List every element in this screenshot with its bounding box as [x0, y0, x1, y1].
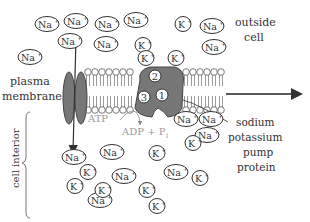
lipid-head [190, 69, 197, 76]
inside-ion-charge: + [218, 112, 223, 119]
inside-ion-label: K [98, 185, 106, 196]
inside-ion-charge: + [161, 146, 166, 153]
lipid-head [197, 69, 204, 76]
ions-outside-group: Na+Na+Na+Na+Na+Na+Na+Na+Na+K+K+K+K+ [18, 13, 226, 66]
outside-cell-label-line2: cell [244, 31, 264, 44]
outside-ion-charge: + [77, 34, 82, 41]
cell-interior-brace [22, 112, 30, 218]
atp-label: ATP [87, 113, 108, 124]
lipid-head [127, 69, 134, 76]
plasma-membrane-label-line2: membrane [2, 90, 62, 103]
inside-ion-charge: + [204, 171, 209, 178]
pump-site-3-label: 3 [141, 92, 147, 103]
outside-ion-label: K [178, 19, 186, 30]
outside-ion-label: Na [38, 19, 52, 30]
inside-ion-label: Na [65, 152, 79, 163]
lipid-head [113, 69, 120, 76]
outside-ion-label: Na [127, 15, 141, 26]
lipid-head [99, 69, 106, 76]
plasma-membrane-label-line1: plasma [10, 75, 50, 88]
inside-ion-label: Na [167, 167, 181, 178]
outside-ion-label: Na [61, 36, 75, 47]
inside-ion-charge: + [119, 145, 124, 152]
sodium-potassium-pump-diagram: 2 3 1 outside cell plasma membrane cell … [0, 0, 310, 222]
pump-site-1-label: 1 [159, 90, 165, 101]
outside-ion-charge: + [37, 50, 42, 57]
inside-ion-charge: + [214, 128, 219, 135]
inside-ion-label: K [152, 201, 160, 212]
outside-ion-label: K [171, 53, 179, 64]
outside-ion-label: K [138, 40, 146, 51]
inside-ion-charge: + [79, 179, 84, 186]
lipid-head [183, 69, 190, 76]
outside-ion-charge: + [221, 40, 226, 47]
lipid-head [218, 69, 225, 76]
channel-protein-right [75, 72, 87, 124]
inside-ion-label: K [142, 185, 150, 196]
lipid-head [85, 69, 92, 76]
outside-ion-charge: + [147, 38, 152, 45]
outside-ion-label: Na [205, 42, 219, 53]
pump-label-line2: potassium [228, 131, 282, 143]
cell-interior-label: cell interior [10, 128, 21, 188]
inside-ion-charge: + [151, 183, 156, 190]
lipid-head [92, 69, 99, 76]
pump-label-line1: sodium [236, 116, 275, 128]
pump-label-line3: pump [243, 146, 273, 158]
outside-ion-charge: + [150, 51, 155, 58]
lipid-head [120, 69, 127, 76]
adp-subscript: i [166, 132, 169, 140]
inside-ion-charge: + [161, 199, 166, 206]
inside-ion-charge: + [131, 169, 136, 176]
inside-ion-charge: + [193, 112, 198, 119]
outside-ion-label: Na [98, 19, 112, 30]
inside-ion-charge: + [81, 150, 86, 157]
channel-protein-left [63, 72, 75, 124]
inside-ion-label: K [195, 173, 203, 184]
inside-ion-label: Na [115, 171, 129, 182]
outside-ion-label: Na [21, 52, 35, 63]
outside-cell-label-line1: outside [235, 16, 276, 29]
outside-ion-charge: + [187, 17, 192, 24]
outside-ion-charge: + [143, 13, 148, 20]
inside-ion-label: Na [202, 114, 216, 125]
pump-label-line4: protein [237, 161, 276, 173]
outside-ion-charge: + [114, 17, 119, 24]
inside-ion-label: K [152, 148, 160, 159]
lipid-head [211, 69, 218, 76]
outside-ion-label: K [141, 53, 149, 64]
inside-ion-label: K [70, 181, 78, 192]
inside-ion-label: K [83, 167, 91, 178]
inside-ion-charge: + [183, 165, 188, 172]
inside-ion-label: Na [103, 147, 117, 158]
outside-ion-charge: + [54, 17, 59, 24]
outside-ion-charge: + [83, 14, 88, 21]
inside-ion-charge: + [92, 165, 97, 172]
lipid-head [204, 69, 211, 76]
outside-ion-label: Na [203, 21, 217, 32]
outside-ion-label: Na [67, 16, 81, 27]
outside-ion-charge: + [113, 37, 118, 44]
pump-site-2-label: 2 [152, 71, 158, 82]
adp-label: ADP + P [121, 126, 166, 137]
inside-ion-charge: + [107, 183, 112, 190]
inside-ion-label: K [188, 138, 196, 149]
inside-ion-label: Na [177, 114, 191, 125]
outside-ion-charge: + [219, 19, 224, 26]
lipid-head [113, 107, 120, 114]
inside-ion-charge: + [197, 136, 202, 143]
lipid-head [106, 69, 113, 76]
lipid-head [120, 107, 127, 114]
outside-ion-label: Na [97, 39, 111, 50]
outside-ion-charge: + [180, 51, 185, 58]
